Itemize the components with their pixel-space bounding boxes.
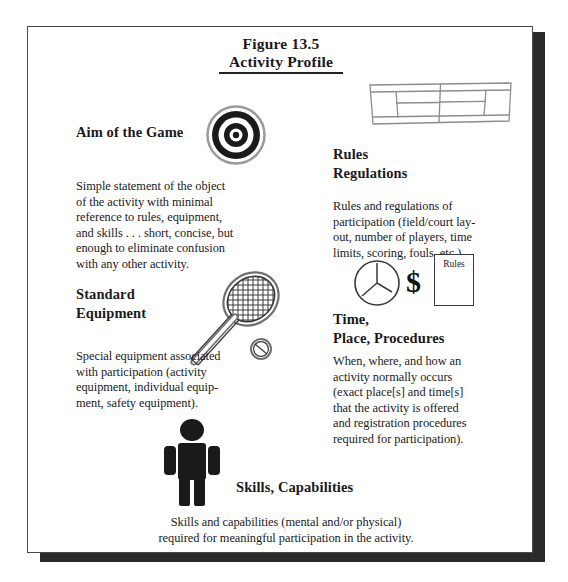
section-body-time: When, where, and how an activity normall… bbox=[333, 354, 558, 448]
section-body-rules: Rules and regulations of participation (… bbox=[333, 199, 548, 261]
section-heading-aim: Aim of the Game bbox=[76, 123, 206, 142]
section-heading-rules: Rules Regulations bbox=[333, 145, 513, 183]
section-body-aim: Simple statement of the object of the ac… bbox=[76, 179, 296, 273]
rules-document-icon: Rules bbox=[434, 254, 474, 306]
section-body-equipment: Special equipment associated with partic… bbox=[76, 349, 301, 411]
bullseye-target-icon bbox=[206, 105, 266, 165]
figure-number: Figure 13.5 bbox=[28, 35, 534, 53]
figure-title: Activity Profile bbox=[219, 53, 343, 74]
rules-document-label: Rules bbox=[435, 259, 473, 269]
clock-icon bbox=[353, 259, 401, 307]
tennis-court-diagram-icon bbox=[368, 81, 513, 127]
figure-frame: Figure 13.5 Activity Profile Aim of the … bbox=[27, 26, 533, 553]
person-figure-icon bbox=[156, 419, 228, 507]
section-heading-skills: Skills, Capabilities bbox=[236, 478, 436, 497]
dollar-sign-icon: $ bbox=[406, 267, 421, 297]
section-body-skills: Skills and capabilities (mental and/or p… bbox=[91, 515, 481, 546]
figure-page: Figure 13.5 Activity Profile Aim of the … bbox=[0, 0, 568, 582]
section-heading-equipment: Standard Equipment bbox=[76, 285, 216, 323]
section-heading-time: Time, Place, Procedures bbox=[333, 310, 533, 348]
figure-title-block: Figure 13.5 Activity Profile bbox=[28, 35, 534, 74]
